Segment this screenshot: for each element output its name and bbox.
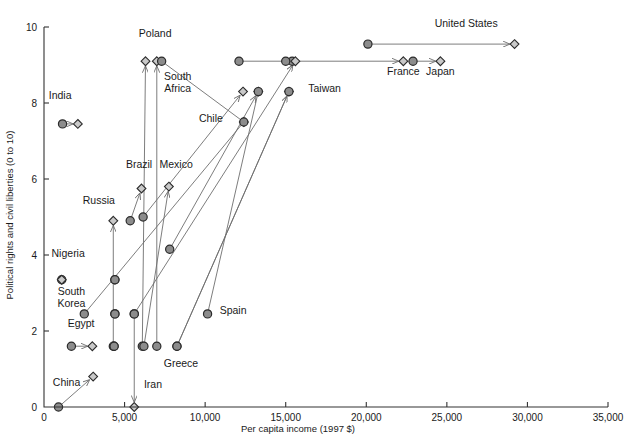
marker-end (88, 342, 97, 351)
x-axis-title: Per capita income (1997 $) (241, 423, 355, 434)
point-label: India (49, 89, 72, 101)
marker-start (158, 57, 166, 65)
y-tick-label: 4 (31, 250, 37, 261)
marker-end (73, 120, 82, 129)
marker-end (89, 372, 98, 381)
y-tick-label: 10 (26, 22, 38, 33)
marker-start (130, 310, 138, 318)
x-tick-label: 10,000 (190, 412, 221, 423)
marker-start (235, 57, 243, 65)
x-tick-label: 25,000 (432, 412, 463, 423)
point-label: Japan (426, 65, 455, 77)
connector-line (134, 66, 292, 314)
y-tick-label: 6 (31, 174, 37, 185)
point-label: United States (435, 17, 498, 29)
connector-line (144, 192, 168, 346)
marker-end (240, 118, 248, 126)
y-tick-label: 0 (31, 402, 37, 413)
marker-end (111, 276, 119, 284)
marker-end (111, 310, 119, 318)
marker-end (239, 87, 248, 96)
point-label: SouthKorea (57, 285, 85, 309)
marker-start (173, 342, 181, 350)
connector-lines-group (59, 44, 510, 407)
marker-start (58, 120, 66, 128)
marker-end (137, 184, 146, 193)
point-label: Poland (139, 27, 172, 39)
marker-start (364, 40, 372, 48)
x-tick-label: 20,000 (351, 412, 382, 423)
point-label: SouthAfrica (164, 70, 192, 94)
point-label: Chile (199, 112, 223, 124)
point-label: Russia (83, 194, 115, 206)
marker-end (109, 216, 118, 225)
point-label: Iran (144, 378, 162, 390)
marker-end (141, 57, 150, 66)
marker-end (164, 182, 173, 191)
point-label: Brazil (126, 158, 152, 170)
marker-start (166, 245, 174, 253)
y-tick-label: 2 (31, 326, 37, 337)
x-tick-label: 35,000 (593, 412, 624, 423)
point-label: France (387, 65, 420, 77)
point-label: Taiwan (308, 82, 341, 94)
marker-start (140, 342, 148, 350)
marker-end (282, 57, 290, 65)
marker-end (285, 88, 293, 96)
connector-line (142, 66, 145, 346)
marker-start (126, 217, 134, 225)
x-tick-label: 5,000 (112, 412, 137, 423)
scatter-chart: 05,00010,00015,00020,00025,00030,00035,0… (0, 0, 624, 443)
marker-end (254, 88, 262, 96)
chart-plot-area: 05,00010,00015,00020,00025,00030,00035,0… (0, 0, 624, 443)
point-label: China (53, 376, 81, 388)
marker-start (139, 213, 147, 221)
data-markers-group (54, 40, 519, 412)
connector-line (208, 92, 259, 314)
marker-start (203, 310, 211, 318)
point-label: Egypt (68, 317, 95, 329)
x-tick-label: 15,000 (270, 412, 301, 423)
connector-line (143, 96, 240, 217)
point-label: Mexico (160, 158, 193, 170)
marker-start (67, 342, 75, 350)
marker-end (510, 40, 519, 49)
point-labels-group: United StatesFranceJapanPolandSouthAfric… (49, 17, 498, 390)
point-label: Spain (220, 304, 247, 316)
x-tick-label: 0 (41, 412, 47, 423)
x-tick-label: 30,000 (512, 412, 543, 423)
marker-end (110, 342, 118, 350)
point-label: Greece (164, 357, 199, 369)
marker-start (153, 342, 161, 350)
y-axis-title: Political rights and civil liberties (0 … (4, 131, 15, 300)
y-tick-label: 8 (31, 98, 37, 109)
connector-line (84, 122, 244, 314)
point-label: Nigeria (52, 247, 85, 259)
